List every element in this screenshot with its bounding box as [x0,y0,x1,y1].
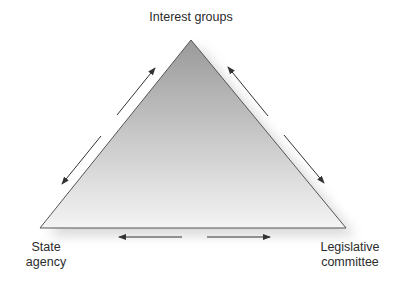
node-label-line: Legislative [320,240,379,255]
node-label-line: committee [320,255,379,270]
node-label-line: Interest groups [149,10,232,25]
triangle [40,40,346,228]
node-legislative-committee: Legislative committee [320,240,379,270]
node-interest-groups: Interest groups [149,10,232,25]
node-state-agency: State agency [26,240,66,270]
node-label-line: agency [26,255,66,270]
node-label-line: State [26,240,66,255]
